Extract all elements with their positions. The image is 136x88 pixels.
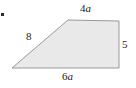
- trapezoid-shape: [12, 20, 119, 68]
- side-label-right: 5: [122, 39, 128, 50]
- side-label-slant-coefficient: 8: [26, 30, 32, 42]
- side-label-bottom: 6a: [62, 71, 73, 82]
- side-label-bottom-variable: a: [68, 70, 74, 82]
- side-label-right-coefficient: 5: [122, 38, 128, 50]
- side-label-top: 4a: [80, 3, 91, 14]
- side-label-slant: 8: [26, 31, 32, 42]
- side-label-top-variable: a: [86, 2, 92, 14]
- geometry-figure: 4a 5 6a 8: [0, 0, 136, 88]
